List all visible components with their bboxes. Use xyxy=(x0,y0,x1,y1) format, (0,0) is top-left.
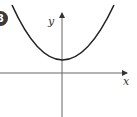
y-axis-label: y xyxy=(47,15,55,28)
x-axis-label: x xyxy=(123,75,130,88)
parabola-chart: y x xyxy=(0,0,137,117)
parabola-curve xyxy=(12,5,114,60)
